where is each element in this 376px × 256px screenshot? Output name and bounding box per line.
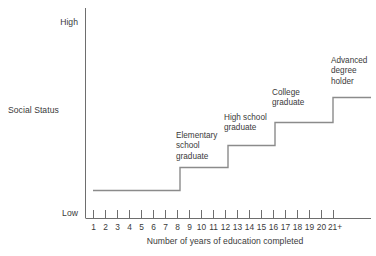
x-axis-ticks: [94, 210, 334, 218]
step-label-college-line1: College: [272, 88, 304, 98]
step-label-elementary-line1: Elementary: [176, 131, 217, 141]
step-label-high-school-line2: graduate: [224, 123, 267, 133]
step-label-advanced-degree-line3: holder: [331, 77, 367, 87]
step-label-college: College graduate: [272, 88, 304, 109]
step-label-advanced-degree-line2: degree: [331, 66, 367, 76]
y-axis-title: Social Status: [8, 105, 59, 115]
step-label-college-line2: graduate: [272, 98, 304, 108]
step-label-elementary: Elementary school graduate: [176, 131, 217, 162]
x-tick-label-21plus: 21+: [324, 223, 346, 232]
y-axis-high-label: High: [28, 17, 78, 27]
step-label-high-school: High school graduate: [224, 113, 267, 134]
step-label-elementary-line3: graduate: [176, 152, 217, 162]
step-line-series: [93, 98, 371, 191]
step-label-high-school-line1: High school: [224, 113, 267, 123]
step-label-advanced-degree-line1: Advanced: [331, 56, 367, 66]
step-label-advanced-degree: Advanced degree holder: [331, 56, 367, 87]
y-axis-low-label: Low: [28, 208, 78, 218]
step-chart-figure: Social Status High Low 1 2 3 4 5 6 7 8 9…: [0, 0, 376, 256]
x-axis-title: Number of years of education completed: [110, 236, 340, 246]
step-label-elementary-line2: school: [176, 141, 217, 151]
